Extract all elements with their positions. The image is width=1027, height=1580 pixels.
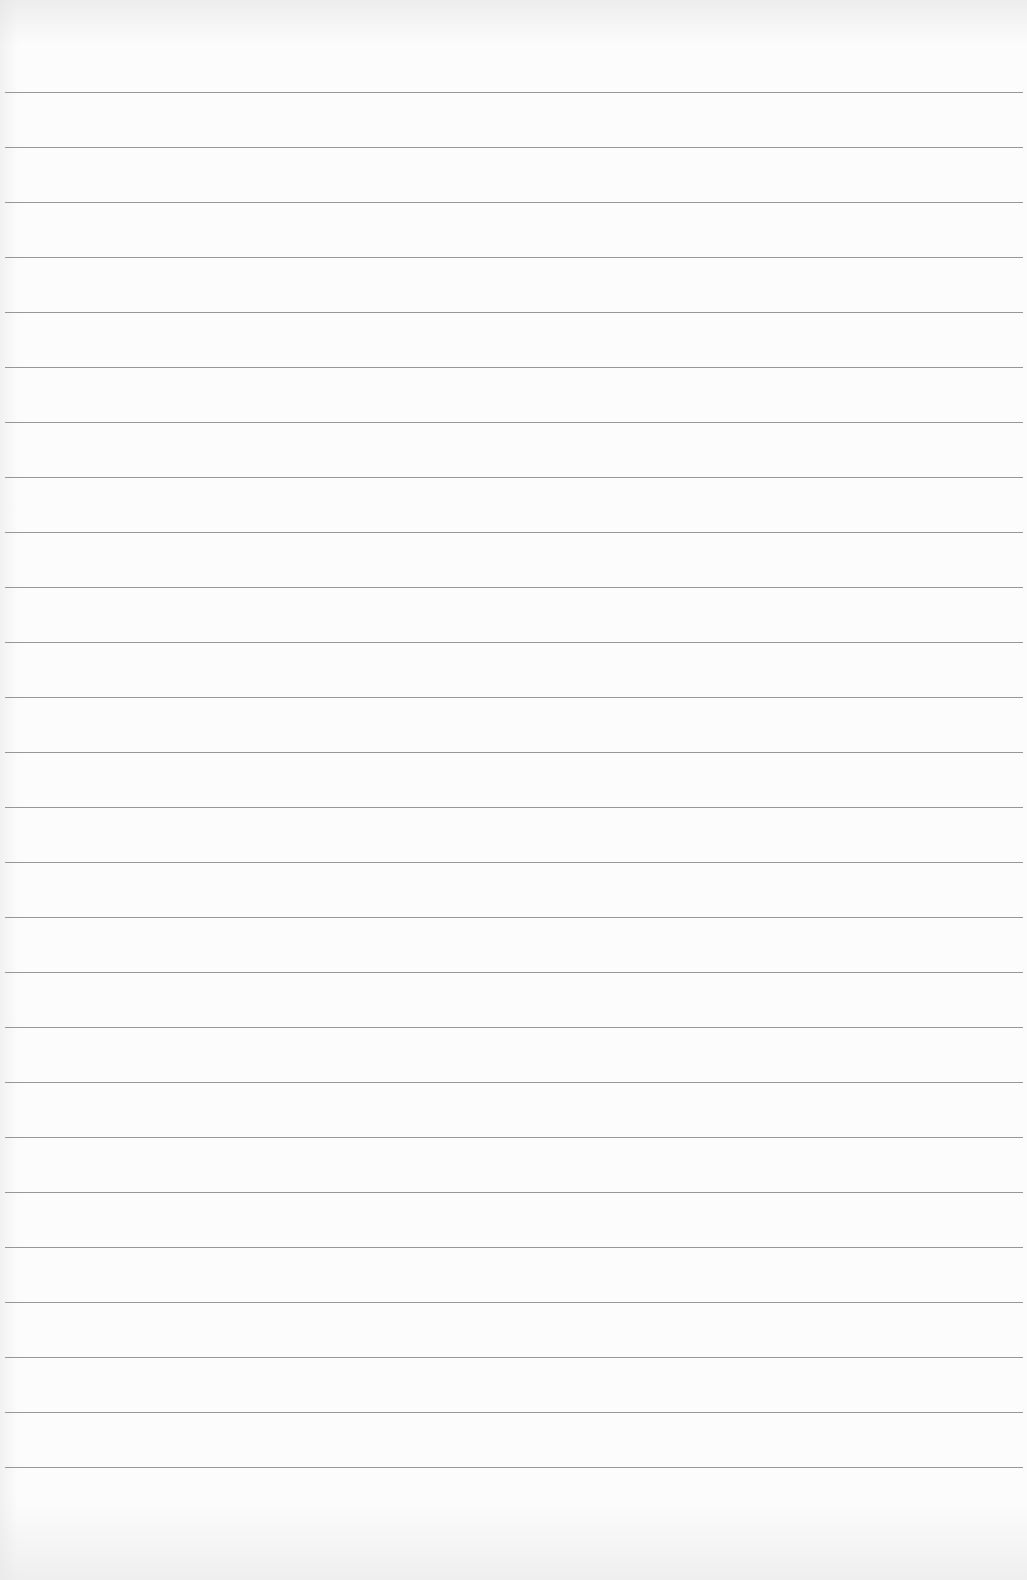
lined-paper-sheet	[0, 0, 1027, 1580]
ruled-line	[5, 1302, 1023, 1304]
ruled-line	[5, 587, 1023, 589]
ruled-line	[5, 1192, 1023, 1194]
ruled-line	[5, 697, 1023, 699]
ruled-line	[5, 202, 1023, 204]
ruled-line	[5, 422, 1023, 424]
ruled-line	[5, 92, 1023, 94]
ruled-line	[5, 312, 1023, 314]
ruled-line	[5, 1027, 1023, 1029]
ruled-line	[5, 532, 1023, 534]
ruled-line	[5, 862, 1023, 864]
ruled-line	[5, 1412, 1023, 1414]
ruled-line	[5, 917, 1023, 919]
ruled-line	[5, 752, 1023, 754]
ruled-line	[5, 807, 1023, 809]
ruled-line	[5, 1082, 1023, 1084]
ruled-line	[5, 1357, 1023, 1359]
ruled-line	[5, 477, 1023, 479]
ruled-line	[5, 367, 1023, 369]
ruled-line	[5, 972, 1023, 974]
ruled-line	[5, 1247, 1023, 1249]
ruled-line	[5, 1137, 1023, 1139]
ruled-line	[5, 1467, 1023, 1469]
ruled-line	[5, 147, 1023, 149]
ruled-line	[5, 642, 1023, 644]
ruled-line	[5, 257, 1023, 259]
